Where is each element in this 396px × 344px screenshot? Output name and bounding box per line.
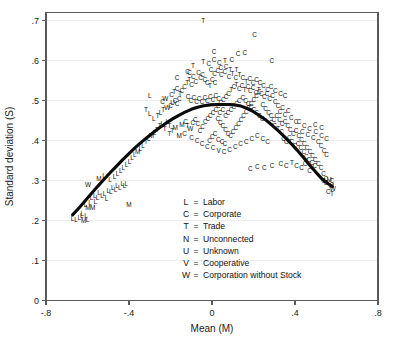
data-point-marker: C	[189, 134, 194, 141]
data-point-marker: C	[217, 59, 222, 66]
legend-equals: =	[193, 234, 198, 244]
data-point-marker: C	[227, 146, 232, 153]
data-point-marker: C	[294, 118, 299, 125]
data-point-marker: T	[290, 159, 294, 166]
data-point-marker: C	[187, 69, 192, 76]
data-point-marker: C	[242, 49, 247, 56]
y-tick-label: .5	[31, 96, 39, 106]
data-point-marker: C	[280, 104, 285, 111]
plot-canvas: LLLLMLLLMLLMLLLLLLLLLLLLLLLLLMWMLLLLLLLL…	[0, 0, 396, 344]
data-point-marker: L	[81, 210, 85, 217]
data-point-marker: C	[260, 115, 265, 122]
legend-key: V	[183, 258, 189, 268]
scatter-plot-figure: LLLLMLLLMLLMLLLLLLLLLLLLLLLLLMWMLLLLLLLL…	[0, 0, 396, 344]
data-point-marker: T	[235, 66, 239, 73]
y-tick-label: .1	[31, 256, 39, 266]
legend-label: Trade	[203, 221, 225, 231]
data-point-marker: C	[307, 125, 312, 132]
y-axis-label: Standard deviation (S)	[4, 107, 15, 207]
y-tick-label: .6	[31, 56, 39, 66]
data-point-marker: C	[283, 92, 288, 99]
data-point-marker: L	[108, 176, 112, 183]
data-point-marker: T	[201, 17, 205, 24]
data-point-marker: C	[248, 165, 253, 172]
data-point-marker: T	[168, 130, 172, 137]
data-point-marker: C	[269, 57, 274, 64]
data-point-marker: C	[255, 163, 260, 170]
data-point-marker: C	[229, 56, 234, 63]
data-point-marker: C	[307, 167, 312, 174]
data-point-marker: T	[191, 62, 195, 69]
data-point-marker: C	[313, 121, 318, 128]
data-point-marker: C	[213, 79, 218, 86]
y-tick-label: .4	[31, 136, 39, 146]
data-point-marker: C	[273, 87, 278, 94]
x-tick-label: .4	[291, 308, 299, 318]
data-point-marker: C	[265, 86, 270, 93]
data-point-marker: L	[105, 195, 109, 202]
data-point-marker: C	[284, 162, 289, 169]
data-point-marker: C	[312, 162, 317, 169]
legend-equals: =	[193, 270, 198, 280]
data-point-marker: C	[236, 50, 241, 57]
data-point-marker: T	[228, 66, 232, 73]
data-point-marker: C	[252, 31, 257, 38]
data-point-marker: C	[223, 112, 228, 119]
legend-label: Corporate	[203, 209, 241, 219]
data-point-marker: C	[262, 164, 267, 171]
y-tick-label: .2	[31, 216, 39, 226]
legend-key: C	[183, 209, 189, 219]
data-point-marker: C	[216, 95, 221, 102]
data-point-marker: C	[238, 140, 243, 147]
legend-key: N	[183, 234, 189, 244]
data-point-marker: T	[201, 58, 205, 65]
data-point-marker: L	[148, 92, 152, 99]
data-point-marker: C	[205, 143, 210, 150]
x-tick-label: 0	[209, 308, 214, 318]
data-point-marker: C	[233, 143, 238, 150]
data-point-marker: T	[163, 125, 167, 132]
data-point-marker: C	[234, 74, 239, 81]
data-point-marker: L	[148, 110, 152, 117]
data-point-marker: C	[222, 148, 227, 155]
data-point-marker: C	[270, 162, 275, 169]
data-point-marker: C	[286, 107, 291, 114]
data-point-marker: C	[175, 74, 180, 81]
legend-equals: =	[193, 209, 198, 219]
data-point-marker: C	[218, 109, 223, 116]
data-point-marker: C	[300, 128, 305, 135]
data-point-marker: M	[177, 132, 182, 139]
x-tick-label: .8	[374, 308, 382, 318]
data-point-marker: C	[324, 151, 329, 158]
data-point-marker: C	[279, 128, 284, 135]
data-point-marker: T	[144, 106, 148, 113]
y-tick-label: 0	[34, 296, 39, 306]
data-point-marker: C	[250, 135, 255, 142]
legend-equals: =	[193, 246, 198, 256]
legend-label: Labor	[203, 197, 225, 207]
legend-label: Unknown	[203, 246, 239, 256]
data-point-marker: C	[313, 128, 318, 135]
data-point-marker: C	[279, 160, 284, 167]
y-tick-label: .3	[31, 176, 39, 186]
data-point-marker: C	[200, 140, 205, 147]
legend-key: L	[184, 197, 189, 207]
data-point-marker: C	[255, 132, 260, 139]
data-point-marker: C	[244, 138, 249, 145]
data-point-marker: C	[265, 138, 270, 145]
data-point-marker: T	[330, 190, 334, 197]
data-point-marker: T	[223, 57, 227, 64]
x-axis-label: Mean (M)	[191, 323, 234, 334]
data-point-marker: C	[278, 90, 283, 97]
figure-background	[0, 0, 396, 344]
data-point-marker: C	[319, 124, 324, 131]
legend-label: Corporation without Stock	[203, 270, 302, 280]
data-point-marker: C	[182, 130, 187, 137]
data-point-marker: C	[212, 48, 217, 55]
data-point-marker: W	[187, 125, 194, 132]
legend-key: T	[183, 221, 189, 231]
data-point-marker: C	[160, 98, 165, 105]
legend-equals: =	[193, 221, 198, 231]
data-point-marker: C	[211, 144, 216, 151]
data-point-marker: C	[306, 131, 311, 138]
